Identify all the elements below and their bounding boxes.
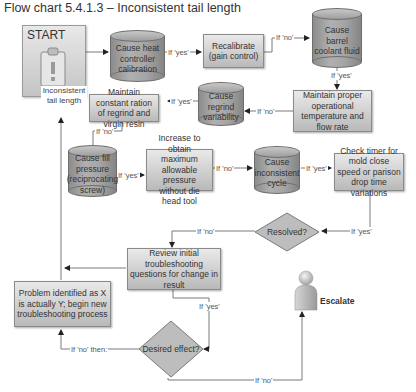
- edge-label: If 'no' then:: [70, 345, 108, 354]
- edge-label: If 'yes': [167, 48, 190, 57]
- start-caption: Inconsistent tail length: [41, 86, 87, 106]
- edge-label: If 'no': [95, 127, 114, 136]
- edge-label: If 'yes': [198, 302, 221, 311]
- node-cause-fill-pressure: Cause fill pressure (reciprocating screw…: [68, 145, 117, 197]
- node-resolved-decision: Resolved?: [254, 212, 320, 252]
- node-cause-heat-controller: Cause heat controller calibration: [110, 30, 165, 82]
- edge-label: If 'no': [215, 164, 234, 173]
- edge-label: If 'yes': [330, 71, 353, 80]
- node-cause-barrel-coolant: Cause barrel coolant fluid: [312, 8, 362, 68]
- node-problem-identified: Problem identified as X is actually Y; b…: [14, 281, 111, 327]
- node-review-questions: Review initial troubleshooting questions…: [127, 248, 221, 290]
- edge-label: If 'no': [275, 33, 294, 42]
- node-recalibrate: Recalibrate (gain control): [203, 34, 264, 68]
- person-escalate-icon: [292, 270, 320, 312]
- node-cause-inconsistent-cycle: Cause inconsistent cycle: [254, 146, 300, 194]
- node-desired-effect-decision: Desired effect?: [138, 320, 204, 378]
- edge-label: If 'no': [256, 107, 275, 116]
- node-cause-regrind: Cause regrind variability: [198, 82, 244, 126]
- edge-label: If 'yes': [305, 164, 328, 173]
- clipboard-warning-icon: [37, 44, 71, 90]
- node-check-timer: Check timer for mold close speed or pari…: [334, 153, 404, 191]
- node-increase-pressure: Increase to obtain maximum allowable pre…: [146, 149, 213, 191]
- edge-label: If 'yes': [170, 97, 193, 106]
- edge-label: If 'yes': [117, 171, 140, 180]
- edge-label: If 'no': [254, 376, 273, 385]
- node-maintain-temperature-flow: Maintain proper operational temperature …: [293, 90, 372, 132]
- edge-label: If 'no': [196, 227, 215, 236]
- edge-label: If 'yes': [350, 227, 373, 236]
- node-maintain-ratio: Maintain constant ration of regrind and …: [89, 94, 159, 122]
- escalate-label: Escalate: [320, 296, 355, 306]
- start-label: START: [27, 28, 65, 42]
